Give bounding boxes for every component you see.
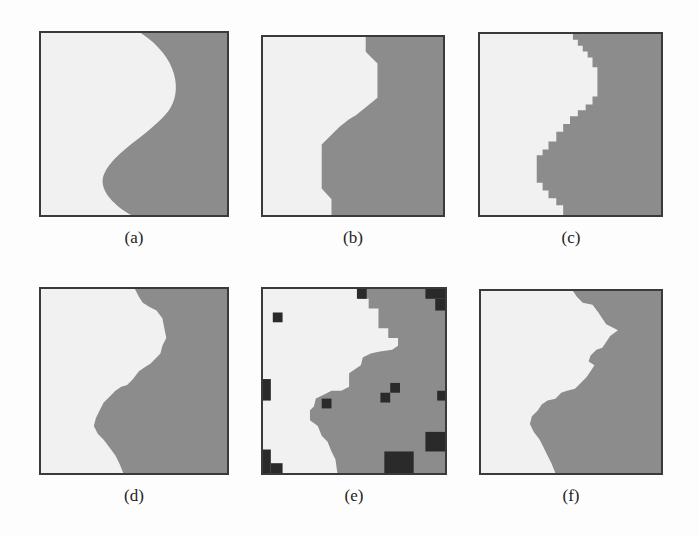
segmentation-map-e [263,289,445,473]
caption-a: (a) [104,228,164,248]
segmentation-map-c [480,34,661,215]
panel-c [478,32,663,217]
caption-d: (d) [104,486,164,506]
panel-b [261,35,445,217]
panel-d [39,287,229,475]
segmentation-map-a [41,33,227,215]
segmentation-map-d [41,289,227,473]
panel-f [479,289,663,475]
caption-b: (b) [323,228,383,248]
caption-e: (e) [324,486,384,506]
caption-c: (c) [541,228,601,248]
panel-a [39,31,229,217]
panel-e [261,287,447,475]
caption-f: (f) [541,486,601,506]
segmentation-map-b [263,37,443,215]
segmentation-map-f [481,291,661,473]
